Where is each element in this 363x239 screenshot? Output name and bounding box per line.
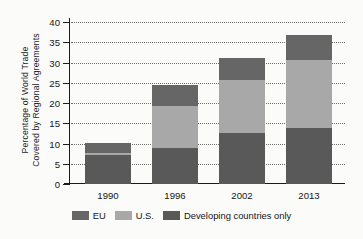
x-axis-tick-label: 1990: [85, 190, 131, 201]
y-axis-tick: [63, 184, 70, 185]
bar-segment: [219, 58, 265, 79]
chart-figure: Percentage of World Trade Covered by Reg…: [0, 0, 363, 239]
legend-item: U.S.: [115, 210, 154, 221]
legend-label: EU: [93, 210, 106, 221]
x-axis-tick-label: 2013: [286, 190, 332, 201]
legend-swatch-icon: [115, 211, 132, 220]
y-axis-tick: [63, 144, 70, 145]
y-axis-tick-label: 5: [55, 158, 60, 169]
bar-segment: [85, 155, 131, 184]
bar-segment: [219, 80, 265, 133]
x-axis-tick-label: 1996: [152, 190, 198, 201]
legend-label: U.S.: [136, 210, 154, 221]
y-axis-tick-label: 10: [49, 138, 60, 149]
y-axis-tick-label: 30: [49, 57, 60, 68]
plot-area: 0510152025303540 1990199620022013: [69, 22, 345, 184]
chart-legend: EUU.S.Developing countries only: [0, 210, 363, 221]
y-axis-tick: [63, 123, 70, 124]
y-axis-tick: [63, 164, 70, 165]
bar-segment: [152, 85, 198, 106]
y-axis-tick-label: 0: [55, 179, 60, 190]
bar-segment: [85, 143, 131, 154]
y-axis-tick-label: 20: [49, 98, 60, 109]
y-axis-tick-label: 15: [49, 118, 60, 129]
legend-item: EU: [72, 210, 106, 221]
y-axis-tick: [63, 103, 70, 104]
y-axis-tick: [63, 63, 70, 64]
y-axis-title-line-1: Percentage of World Trade: [20, 47, 30, 154]
y-axis-tick-label: 35: [49, 37, 60, 48]
legend-item: Developing countries only: [163, 210, 291, 221]
bar-segment: [286, 128, 332, 184]
bar-segment: [85, 153, 131, 155]
bar-segment: [219, 133, 265, 184]
bar-1990: 1990: [85, 143, 131, 184]
bar-segment: [152, 148, 198, 184]
bar-segment: [152, 106, 198, 148]
y-axis-title: Percentage of World Trade Covered by Reg…: [12, 10, 42, 190]
bar-2002: 2002: [219, 58, 265, 184]
y-axis-tick: [63, 22, 70, 23]
y-axis-tick: [63, 42, 70, 43]
legend-label: Developing countries only: [184, 210, 291, 221]
gridline: [71, 22, 345, 23]
legend-swatch-icon: [163, 211, 180, 220]
y-axis-tick: [63, 83, 70, 84]
y-axis-title-line-2: Covered by Regional Agreements: [31, 33, 41, 167]
y-axis-tick-label: 40: [49, 17, 60, 28]
bar-segment: [286, 35, 332, 60]
legend-swatch-icon: [72, 211, 89, 220]
x-axis-tick-label: 2002: [219, 190, 265, 201]
y-axis-tick-label: 25: [49, 77, 60, 88]
bar-2013: 2013: [286, 35, 332, 184]
bar-segment: [286, 60, 332, 128]
bar-1996: 1996: [152, 85, 198, 184]
